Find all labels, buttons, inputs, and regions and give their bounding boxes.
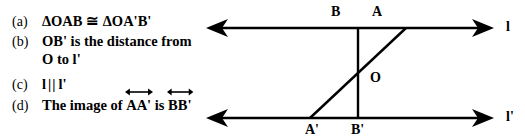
geometry-figure-page: (a) ΔOAB ≅ ΔOA'B' (b) OB' is the distanc… <box>0 0 525 138</box>
line-l <box>206 19 494 37</box>
label-B: B <box>331 4 340 20</box>
diagram-canvas <box>0 0 525 138</box>
geometry-diagram: B A O A' B' l l' <box>0 0 525 138</box>
label-O: O <box>370 70 381 86</box>
label-B-prime: B' <box>351 122 364 138</box>
label-line-l: l <box>506 19 510 35</box>
label-line-l-prime: l' <box>506 109 514 125</box>
label-A-prime: A' <box>305 122 319 138</box>
label-A: A <box>372 4 382 20</box>
line-l-prime <box>206 109 494 127</box>
